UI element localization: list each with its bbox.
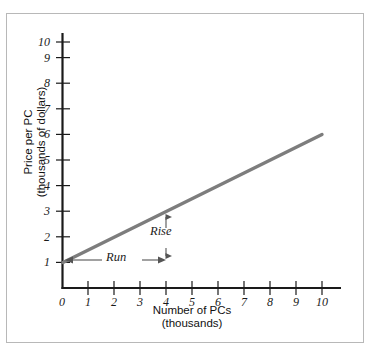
run-annotation-label: Run <box>106 251 126 264</box>
y-tick-label-2: 2 <box>34 231 50 243</box>
x-axis-title: Number of PCs (thousands) <box>62 304 322 330</box>
y-axis-title-line1: Price per PC <box>22 52 35 232</box>
x-axis-title-line2: (thousands) <box>62 317 322 330</box>
y-tick-label-1: 1 <box>34 256 50 268</box>
rise-annotation-label: Rise <box>150 225 172 238</box>
y-tick-label-10: 10 <box>34 36 50 48</box>
series-line-supply <box>63 134 322 262</box>
x-axis-title-line1: Number of PCs <box>62 304 322 317</box>
y-axis-title: Price per PC (thousands of dollars) <box>22 52 48 232</box>
y-axis-title-line2: (thousands of dollars) <box>35 52 48 232</box>
figure-container: 10 9 8 7 6 5 4 3 2 1 0 1 2 3 4 5 6 7 8 9… <box>0 0 376 360</box>
